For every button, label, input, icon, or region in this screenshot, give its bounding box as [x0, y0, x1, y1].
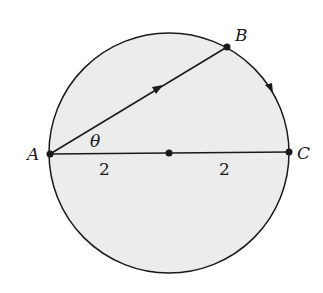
point-a	[47, 151, 54, 158]
label-theta: θ	[90, 131, 100, 151]
point-b	[224, 44, 231, 51]
label-a: A	[25, 144, 39, 164]
circle-diagram: A B C θ 2 2	[0, 0, 323, 293]
point-center	[166, 150, 173, 157]
label-b: B	[234, 25, 248, 45]
label-c: C	[297, 143, 310, 163]
label-length-left: 2	[99, 159, 110, 179]
point-c	[286, 149, 293, 156]
label-length-right: 2	[219, 159, 230, 179]
